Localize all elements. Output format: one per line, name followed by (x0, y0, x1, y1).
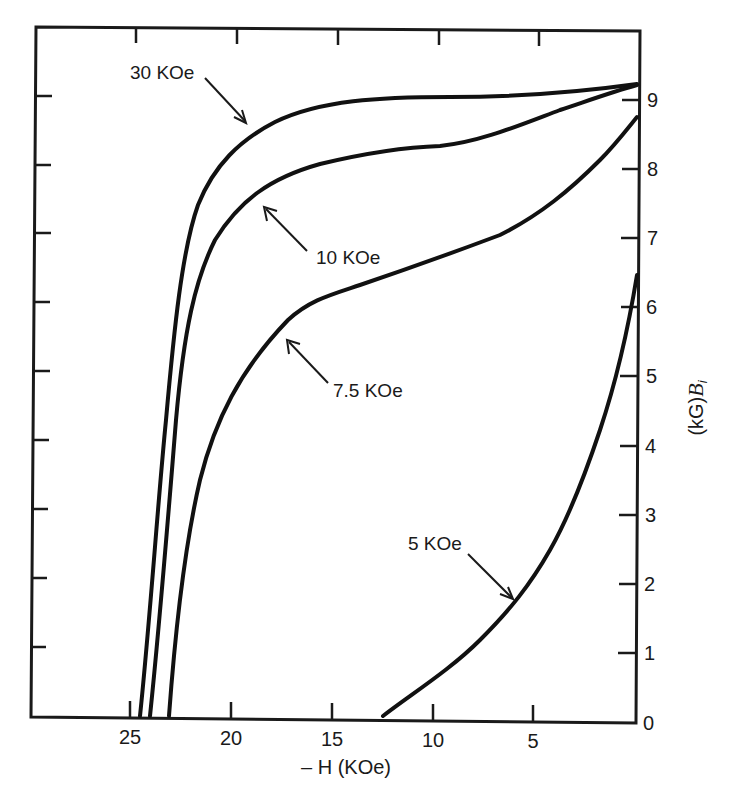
y-tick-2: 2 (644, 573, 655, 595)
y-tick-1: 1 (644, 642, 655, 664)
arrow-7-5-koe (289, 342, 328, 383)
svg-text:(kG)Bi: (kG)Bi (683, 379, 710, 435)
arrow-10-koe (266, 209, 307, 251)
x-tick-5: 5 (527, 730, 538, 752)
arrow-30-koe (205, 78, 245, 121)
x-tick-20: 20 (220, 727, 242, 749)
label-5-koe: 5 KOe (408, 533, 462, 554)
x-axis-title: – H (KOe) (301, 756, 391, 778)
label-10-koe: 10 KOe (316, 247, 380, 268)
x-tick-labels: 25 20 15 10 5 (119, 726, 539, 752)
y-tick-9: 9 (647, 89, 658, 111)
x-tick-25: 25 (119, 726, 141, 748)
y-tick-0: 0 (643, 712, 654, 734)
label-30-koe: 30 KOe (130, 62, 194, 83)
demagnetization-chart: 9 8 7 6 5 4 3 2 1 0 25 20 15 10 5 – H (K… (0, 0, 732, 793)
y-tick-8: 8 (647, 158, 658, 180)
plot-frame (31, 27, 640, 723)
arrow-5-koe (468, 554, 512, 598)
y-tick-7: 7 (647, 227, 658, 249)
x-tick-15: 15 (321, 728, 343, 750)
y-tick-4: 4 (645, 435, 656, 457)
x-tick-10: 10 (422, 729, 444, 751)
curve-5-koe (383, 275, 637, 716)
y-axis-title: (kG)Bi (683, 379, 710, 435)
y-tick-labels: 9 8 7 6 5 4 3 2 1 0 (643, 89, 658, 734)
label-7-5-koe: 7.5 KOe (333, 380, 403, 401)
y-tick-3: 3 (645, 504, 656, 526)
y-tick-6: 6 (646, 296, 657, 318)
y-tick-5: 5 (646, 365, 657, 387)
